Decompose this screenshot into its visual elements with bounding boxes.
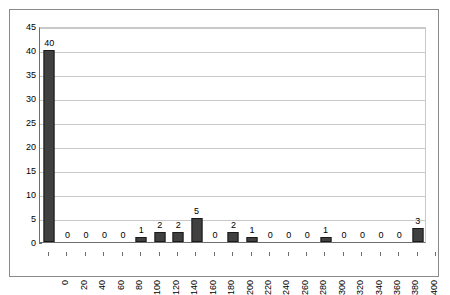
x-axis-tick-label: 20 — [80, 280, 89, 290]
x-axis-tick — [435, 252, 436, 256]
y-axis-tick-label: 45 — [14, 23, 36, 32]
bar[interactable] — [173, 232, 184, 242]
bar[interactable] — [320, 237, 331, 242]
bar-value-label: 1 — [323, 226, 328, 235]
x-axis-tick-label: 60 — [117, 280, 126, 290]
bar-slot: 0 — [261, 28, 279, 242]
bar-value-label: 0 — [213, 231, 218, 240]
bar-slot: 0 — [206, 28, 224, 242]
bar-value-label: 40 — [44, 39, 54, 48]
bar-slot: 0 — [95, 28, 113, 242]
x-axis-tick-label: 400 — [430, 280, 439, 295]
bar-value-label: 3 — [415, 217, 420, 226]
plot-area: 4000001225021000100003 — [39, 27, 426, 243]
bar-slot: 0 — [298, 28, 316, 242]
bar-value-label: 0 — [120, 231, 125, 240]
y-axis-labels: 051015202530354045 — [10, 27, 36, 243]
y-axis-tick-label: 20 — [14, 143, 36, 152]
x-axis-tick-label: 320 — [356, 280, 365, 295]
y-axis-tick-label: 10 — [14, 191, 36, 200]
y-axis-tick-label: 5 — [14, 215, 36, 224]
x-axis-tick-label: 360 — [393, 280, 402, 295]
bar-slot: 2 — [151, 28, 169, 242]
bar-slot: 1 — [243, 28, 261, 242]
bar-value-label: 0 — [268, 231, 273, 240]
bar-value-label: 2 — [231, 221, 236, 230]
x-axis-tick-label: 140 — [190, 280, 199, 295]
y-axis-tick-label: 30 — [14, 95, 36, 104]
x-axis-tick-label: 0 — [61, 280, 70, 285]
bar-value-label: 0 — [65, 231, 70, 240]
bar-slot: 0 — [280, 28, 298, 242]
bar[interactable] — [246, 237, 257, 242]
y-axis-tick-label: 25 — [14, 119, 36, 128]
bar-slot: 0 — [353, 28, 371, 242]
x-axis-tick-label: 120 — [172, 280, 181, 295]
bar-value-label: 0 — [360, 231, 365, 240]
x-axis-tick-label: 300 — [338, 280, 347, 295]
bar[interactable] — [154, 232, 165, 242]
x-axis-tick-label: 80 — [135, 280, 144, 290]
bar-value-label: 5 — [194, 207, 199, 216]
x-axis-tick-label: 160 — [209, 280, 218, 295]
bar-value-label: 2 — [176, 221, 181, 230]
bar-slot: 0 — [58, 28, 76, 242]
x-axis-tick-label: 240 — [282, 280, 291, 295]
bar-value-label: 0 — [305, 231, 310, 240]
x-axis-tick-label: 280 — [319, 280, 328, 295]
bar-value-label: 0 — [342, 231, 347, 240]
bar-slot: 3 — [409, 28, 427, 242]
y-axis-tick-label: 0 — [14, 239, 36, 248]
bar[interactable] — [136, 237, 147, 242]
bar-slot: 0 — [77, 28, 95, 242]
bar-value-label: 0 — [84, 231, 89, 240]
chart-frame: 051015202530354045 400000122502100010000… — [9, 9, 439, 277]
bar-value-label: 1 — [249, 226, 254, 235]
x-axis-tick-label: 100 — [153, 280, 162, 295]
bar[interactable] — [412, 228, 423, 242]
x-axis-labels: 0204060801001201401601802002202402602803… — [48, 256, 435, 282]
bar-value-label: 0 — [397, 231, 402, 240]
bar-value-label: 1 — [139, 226, 144, 235]
y-axis-tick-label: 35 — [14, 71, 36, 80]
x-axis-tick-label: 200 — [246, 280, 255, 295]
x-axis-tick-label: 380 — [411, 280, 420, 295]
bar-value-label: 2 — [157, 221, 162, 230]
y-axis-tick-label: 40 — [14, 47, 36, 56]
bar-slot: 1 — [316, 28, 334, 242]
bar-slot: 1 — [132, 28, 150, 242]
bar-slot: 2 — [224, 28, 242, 242]
y-axis-tick — [39, 243, 42, 244]
bar[interactable] — [191, 218, 202, 242]
bar-slot: 0 — [335, 28, 353, 242]
bar-value-label: 0 — [378, 231, 383, 240]
bar[interactable] — [228, 232, 239, 242]
bar-slot: 0 — [390, 28, 408, 242]
x-axis-tick-label: 260 — [301, 280, 310, 295]
bar-slot: 40 — [40, 28, 58, 242]
x-axis-tick-label: 180 — [227, 280, 236, 295]
bar[interactable] — [44, 50, 55, 242]
x-axis-tick-label: 220 — [264, 280, 273, 295]
bar-value-label: 0 — [102, 231, 107, 240]
bar-slot: 0 — [372, 28, 390, 242]
y-axis-tick-label: 15 — [14, 167, 36, 176]
bar-slot: 5 — [187, 28, 205, 242]
x-axis-tick-label: 340 — [375, 280, 384, 295]
x-axis-tick-label: 40 — [98, 280, 107, 290]
bar-slot: 2 — [169, 28, 187, 242]
bar-slot: 0 — [114, 28, 132, 242]
bar-value-label: 0 — [286, 231, 291, 240]
bars-layer: 4000001225021000100003 — [40, 28, 425, 242]
